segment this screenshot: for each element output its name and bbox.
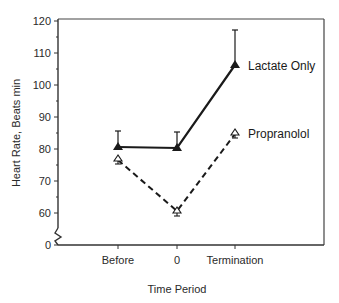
legend-lactate-only: Lactate Only xyxy=(248,59,315,73)
y-label-100: 100 xyxy=(33,79,51,91)
x-label-before: Before xyxy=(102,254,134,266)
x-axis-title: Time Period xyxy=(148,283,207,295)
y-axis-labels: 120 110 100 90 80 70 60 0 xyxy=(33,15,51,251)
x-axis-labels: Before 0 Termination xyxy=(102,254,264,266)
filled-triangle-icon xyxy=(230,60,240,68)
open-triangle-icon xyxy=(231,129,239,135)
legend-propranolol: Propranolol xyxy=(248,127,309,141)
y-label-90: 90 xyxy=(39,111,51,123)
axis-break-icon xyxy=(55,228,61,245)
heart-rate-chart: 120 110 100 90 80 70 60 0 Heart Rate, Be… xyxy=(0,0,339,303)
x-label-termination: Termination xyxy=(207,254,264,266)
open-triangle-icon xyxy=(114,155,122,161)
y-label-60: 60 xyxy=(39,207,51,219)
y-label-120: 120 xyxy=(33,15,51,27)
x-label-zero: 0 xyxy=(174,254,180,266)
y-label-70: 70 xyxy=(39,175,51,187)
y-label-80: 80 xyxy=(39,143,51,155)
y-label-0: 0 xyxy=(45,239,51,251)
y-label-110: 110 xyxy=(33,47,51,59)
y-axis-title: Heart Rate, Beats min xyxy=(10,79,22,187)
